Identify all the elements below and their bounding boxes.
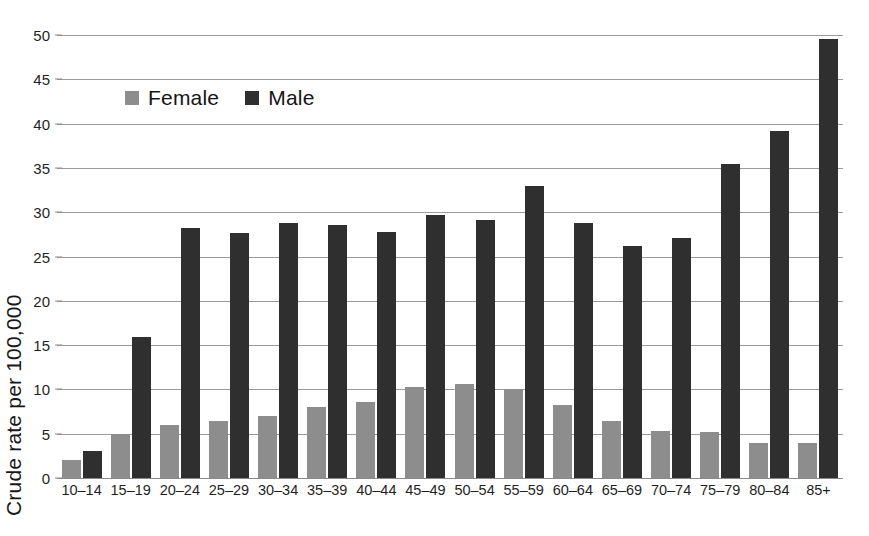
bar-female bbox=[258, 416, 277, 478]
x-axis-ticks: 10–1415–1920–2425–2930–3435–3940–4445–49… bbox=[57, 482, 843, 510]
bar-male bbox=[426, 215, 445, 478]
bar-group bbox=[553, 35, 593, 478]
x-tick-label: 60–64 bbox=[548, 482, 597, 498]
bar-series-container bbox=[57, 0, 843, 478]
y-tick-label: 45 bbox=[10, 71, 50, 88]
legend-item-female[interactable]: Female bbox=[125, 86, 219, 110]
x-tick-label: 20–24 bbox=[155, 482, 204, 498]
x-tick-label: 55–59 bbox=[499, 482, 548, 498]
bar-group bbox=[798, 35, 838, 478]
female-swatch-icon bbox=[125, 91, 139, 105]
bar-male bbox=[377, 232, 396, 478]
bar-group bbox=[651, 35, 691, 478]
y-axis-ticks: 05101520253035404550 bbox=[6, 0, 50, 536]
x-tick-label: 50–54 bbox=[450, 482, 499, 498]
bar-female bbox=[504, 389, 523, 478]
bar-group bbox=[602, 35, 642, 478]
x-tick-label: 15–19 bbox=[106, 482, 155, 498]
bar-male bbox=[476, 220, 495, 478]
bar-group bbox=[455, 35, 495, 478]
bar-male bbox=[279, 223, 298, 478]
x-tick-label: 30–34 bbox=[254, 482, 303, 498]
bar-female bbox=[307, 407, 326, 478]
bar-male bbox=[721, 164, 740, 478]
bar-female bbox=[749, 443, 768, 478]
x-tick-label: 85+ bbox=[794, 482, 843, 498]
bar-female bbox=[209, 421, 228, 478]
bar-male bbox=[83, 451, 102, 478]
x-tick-label: 75–79 bbox=[696, 482, 745, 498]
bar-female bbox=[111, 434, 130, 478]
bar-group bbox=[356, 35, 396, 478]
x-tick-label: 45–49 bbox=[401, 482, 450, 498]
x-tick-label: 35–39 bbox=[303, 482, 352, 498]
bar-male bbox=[819, 39, 838, 478]
legend-label-female: Female bbox=[148, 86, 219, 110]
y-tick-label: 40 bbox=[10, 115, 50, 132]
bar-group bbox=[405, 35, 445, 478]
bar-group bbox=[504, 35, 544, 478]
x-tick-label: 40–44 bbox=[352, 482, 401, 498]
y-tick-label: 0 bbox=[10, 470, 50, 487]
y-tick-label: 35 bbox=[10, 159, 50, 176]
male-swatch-icon bbox=[245, 91, 259, 105]
y-tick-label: 50 bbox=[10, 27, 50, 44]
bar-chart-figure: Crude rate per 100,000 05101520253035404… bbox=[0, 0, 869, 536]
chart-legend: Female Male bbox=[125, 86, 315, 110]
bar-female bbox=[455, 384, 474, 478]
bar-female bbox=[62, 460, 81, 478]
bar-male bbox=[230, 233, 249, 478]
bar-male bbox=[328, 225, 347, 478]
bar-female bbox=[553, 405, 572, 478]
x-tick-label: 25–29 bbox=[204, 482, 253, 498]
legend-item-male[interactable]: Male bbox=[245, 86, 314, 110]
bar-female bbox=[160, 425, 179, 478]
x-tick-label: 70–74 bbox=[647, 482, 696, 498]
x-axis-line bbox=[57, 478, 843, 479]
bar-male bbox=[574, 223, 593, 478]
y-tick-label: 25 bbox=[10, 248, 50, 265]
bar-group bbox=[62, 35, 102, 478]
x-tick-label: 10–14 bbox=[57, 482, 106, 498]
y-tick-label: 30 bbox=[10, 204, 50, 221]
bar-male bbox=[623, 246, 642, 478]
bar-male bbox=[525, 186, 544, 478]
bar-male bbox=[132, 337, 151, 478]
y-tick-label: 15 bbox=[10, 337, 50, 354]
bar-female bbox=[651, 431, 670, 478]
bar-male bbox=[770, 131, 789, 478]
y-tick-label: 20 bbox=[10, 292, 50, 309]
x-tick-label: 80–84 bbox=[745, 482, 794, 498]
bar-group bbox=[700, 35, 740, 478]
bar-female bbox=[405, 387, 424, 478]
legend-label-male: Male bbox=[268, 86, 314, 110]
bar-female bbox=[356, 402, 375, 478]
y-tick-label: 10 bbox=[10, 381, 50, 398]
bar-female bbox=[602, 421, 621, 478]
bar-female bbox=[700, 432, 719, 478]
bar-male bbox=[181, 228, 200, 478]
x-tick-label: 65–69 bbox=[597, 482, 646, 498]
bar-female bbox=[798, 443, 817, 478]
y-tick-label: 5 bbox=[10, 425, 50, 442]
bar-male bbox=[672, 238, 691, 478]
bar-group bbox=[749, 35, 789, 478]
